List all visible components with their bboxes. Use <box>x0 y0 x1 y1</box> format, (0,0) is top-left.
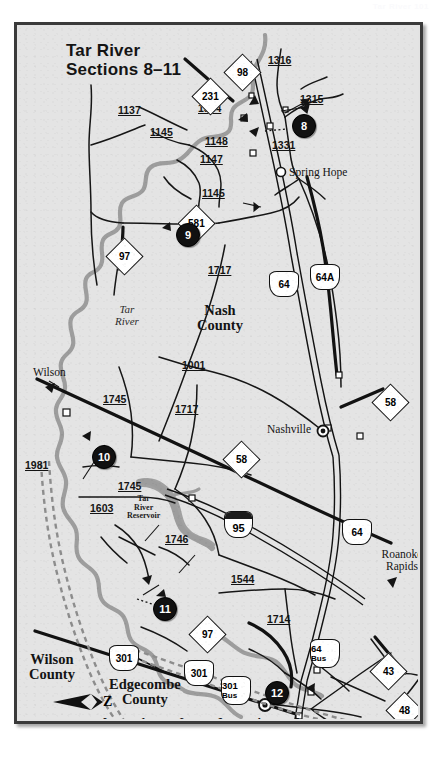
shield-text: 301 <box>116 653 133 664</box>
scale-tick-2: 2 <box>179 716 184 719</box>
route-shield-i-95[interactable]: 95 <box>224 511 253 538</box>
shield-text: 97 <box>119 251 130 262</box>
sr-label-1717-b: 1717 <box>175 403 198 415</box>
route-shield-us-64a[interactable]: 64A <box>310 264 340 290</box>
sr-label-1714: 1714 <box>267 613 290 625</box>
shield-text: 98 <box>237 67 248 78</box>
road-layer <box>19 27 418 719</box>
route-shield-us-64-bus[interactable]: 64 Bus <box>310 639 340 668</box>
route-shield-us-64-s[interactable]: 64 <box>342 519 372 545</box>
section-number: 8 <box>301 120 307 132</box>
section-marker-11[interactable]: 11 <box>153 597 177 621</box>
shield-text: 64A <box>316 272 334 283</box>
section-number: 10 <box>98 451 110 463</box>
shield-text: 64 <box>351 527 362 538</box>
shield-text: 58 <box>385 397 396 408</box>
route-shield-us-301-e[interactable]: 301 <box>184 660 214 686</box>
shield-text: 301 <box>191 668 208 679</box>
sr-label-1316: 1316 <box>268 54 291 66</box>
shield-text: 64 <box>278 279 289 290</box>
map-title-line1: Tar River <box>66 41 181 60</box>
county-label-nash: NashCounty <box>197 303 243 333</box>
sr-label-1717: 1717 <box>208 264 231 276</box>
shield-text: 231 <box>202 91 219 102</box>
sr-label-1331: 1331 <box>272 139 295 151</box>
route-shield-us-301-w[interactable]: 301 <box>109 645 139 671</box>
scale-tick-0: 0 <box>102 716 107 719</box>
section-number: 11 <box>159 603 171 615</box>
map-title: Tar River Sections 8–11 <box>66 41 181 79</box>
sr-label-1001: 1001 <box>182 359 205 371</box>
north-arrow-icon <box>51 692 107 712</box>
shield-text: 95 <box>232 522 244 534</box>
scale-tick-1: 1 <box>141 716 146 719</box>
shield-text-bus: Bus <box>222 691 237 700</box>
map-frame: Tar River Sections 8–11 1137 1145 1148 1… <box>14 22 423 724</box>
map-canvas[interactable]: Tar River Sections 8–11 1137 1145 1148 1… <box>19 27 418 719</box>
shield-text: 58 <box>236 454 247 465</box>
interstate-shield-cap <box>225 512 252 519</box>
city-label-roanoke-rapids: RoanokeRapids <box>372 548 418 572</box>
sr-label-1315: 1315 <box>300 93 323 105</box>
north-arrow: Z <box>51 692 121 714</box>
shield-text: 97 <box>202 629 213 640</box>
section-marker-12[interactable]: 12 <box>265 681 289 705</box>
sr-label-1745-c: 1745 <box>118 480 141 492</box>
water-label-tar-river-reservoir: TarRiverReservoir <box>127 495 160 521</box>
city-label-nashville: Nashville <box>267 423 311 435</box>
sr-label-1544: 1544 <box>231 573 254 585</box>
section-marker-9[interactable]: 9 <box>176 223 200 247</box>
shield-text-bus: Bus <box>311 654 326 663</box>
section-number: 9 <box>185 229 191 241</box>
scale-tick-labels: 0 1 2 3 4 5 <box>105 716 297 719</box>
shield-text: 48 <box>399 705 410 716</box>
shield-text: 64 <box>311 643 322 654</box>
section-number: 12 <box>271 687 283 699</box>
route-shield-us-301-bus[interactable]: 301 Bus <box>221 676 251 705</box>
sr-label-1603: 1603 <box>90 502 113 514</box>
water-label-tar-river: TarRiver <box>115 304 139 327</box>
scale-tick-4: 4 <box>256 716 261 719</box>
section-marker-10[interactable]: 10 <box>92 445 116 469</box>
scale-tick-3: 3 <box>218 716 223 719</box>
sr-label-1147: 1147 <box>200 153 223 165</box>
county-label-wilson: WilsonCounty <box>29 652 75 682</box>
city-label-spring-hope: Spring Hope <box>289 166 347 178</box>
sr-label-1145: 1145 <box>150 126 173 138</box>
sr-label-1148: 1148 <box>205 135 228 147</box>
section-marker-8[interactable]: 8 <box>292 114 316 138</box>
sr-label-1746: 1746 <box>165 533 188 545</box>
city-label-wilson: Wilson <box>33 366 66 378</box>
route-shield-us-64-n[interactable]: 64 <box>269 271 299 297</box>
shield-text: 301 <box>222 680 238 691</box>
scale-bar: 0 1 2 3 4 5 Miles <box>105 716 297 719</box>
page-running-head: Tar River 101 <box>373 2 429 11</box>
sr-label-1145-b: 1145 <box>202 187 225 199</box>
shield-text: 43 <box>383 666 394 677</box>
scale-tick-5: 5 <box>294 716 299 719</box>
sr-label-1745: 1745 <box>103 393 126 405</box>
sr-label-1137: 1137 <box>118 104 141 116</box>
sr-label-1981: 1981 <box>25 459 48 471</box>
north-arrow-label: Z <box>103 694 112 710</box>
map-title-line2: Sections 8–11 <box>66 60 181 79</box>
